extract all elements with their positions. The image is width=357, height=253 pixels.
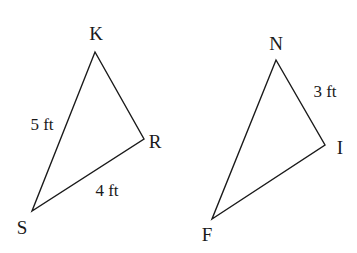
vertex-label-k: K — [89, 23, 103, 44]
vertex-label-f: F — [202, 224, 213, 245]
vertex-label-i: I — [337, 137, 343, 158]
side-label-ni: 3 ft — [313, 82, 336, 101]
diagram-svg: K R S 5 ft 4 ft N I F 3 ft — [0, 0, 357, 253]
triangle-ksr: K R S 5 ft 4 ft — [17, 23, 162, 238]
vertex-label-s: S — [17, 217, 28, 238]
triangle-nif-outline — [212, 60, 325, 219]
triangle-nif: N I F 3 ft — [202, 33, 343, 245]
vertex-label-r: R — [149, 131, 162, 152]
similar-triangles-diagram: K R S 5 ft 4 ft N I F 3 ft — [0, 0, 357, 253]
side-label-ks: 5 ft — [30, 115, 53, 134]
side-label-sr: 4 ft — [95, 181, 118, 200]
vertex-label-n: N — [269, 33, 283, 54]
